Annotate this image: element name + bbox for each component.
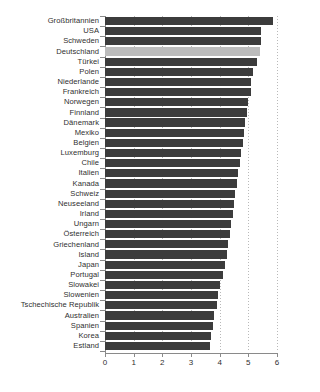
bar-row bbox=[105, 220, 277, 228]
category-label: USA bbox=[83, 27, 99, 35]
bar-row bbox=[105, 58, 277, 66]
category-tick bbox=[100, 67, 105, 68]
category-tick bbox=[100, 351, 105, 352]
bar-irland bbox=[105, 210, 233, 218]
gridline-6 bbox=[277, 16, 278, 351]
category-tick bbox=[100, 168, 105, 169]
bar-kanada bbox=[105, 179, 237, 187]
category-tick bbox=[100, 239, 105, 240]
bar-estland bbox=[105, 342, 210, 350]
bar-neuseeland bbox=[105, 200, 234, 208]
category-label: Korea bbox=[78, 332, 99, 340]
bar-row bbox=[105, 108, 277, 116]
bar-usa bbox=[105, 27, 261, 35]
category-label: Deutschland bbox=[56, 48, 99, 56]
x-tick-label: 5 bbox=[246, 359, 250, 367]
bar--sterreich bbox=[105, 230, 230, 238]
bar-row bbox=[105, 301, 277, 309]
category-tick bbox=[100, 310, 105, 311]
bar-schweden bbox=[105, 37, 261, 45]
x-tick-label: 1 bbox=[131, 359, 135, 367]
x-tick bbox=[162, 353, 163, 357]
bar-row bbox=[105, 179, 277, 187]
bar-row bbox=[105, 129, 277, 137]
x-tick bbox=[277, 353, 278, 357]
category-tick bbox=[100, 128, 105, 129]
category-label: Frankreich bbox=[63, 88, 99, 96]
bar-row bbox=[105, 311, 277, 319]
bar-griechenland bbox=[105, 240, 228, 248]
category-label: Irland bbox=[80, 210, 99, 218]
bar-row bbox=[105, 88, 277, 96]
category-tick bbox=[100, 77, 105, 78]
category-tick bbox=[100, 331, 105, 332]
bar-italien bbox=[105, 169, 238, 177]
bar-row bbox=[105, 159, 277, 167]
category-label: Dänemark bbox=[64, 119, 99, 127]
bar-belgien bbox=[105, 139, 243, 147]
bar-spanien bbox=[105, 322, 213, 330]
category-label: Belgien bbox=[73, 139, 99, 147]
category-tick bbox=[100, 341, 105, 342]
category-tick bbox=[100, 26, 105, 27]
bar-row bbox=[105, 250, 277, 258]
category-label: Finnland bbox=[69, 109, 99, 117]
category-tick bbox=[100, 290, 105, 291]
bar-row bbox=[105, 27, 277, 35]
bar-row bbox=[105, 291, 277, 299]
bar-gro-britannien bbox=[105, 17, 273, 25]
bar-chile bbox=[105, 159, 240, 167]
bar-row bbox=[105, 47, 277, 55]
category-label: Spanien bbox=[71, 322, 99, 330]
bar-row bbox=[105, 190, 277, 198]
bar-row bbox=[105, 261, 277, 269]
bar-row bbox=[105, 332, 277, 340]
bar-row bbox=[105, 169, 277, 177]
category-tick bbox=[100, 199, 105, 200]
plot-area bbox=[105, 16, 277, 351]
category-tick bbox=[100, 229, 105, 230]
category-tick bbox=[100, 148, 105, 149]
category-label: Mexiko bbox=[75, 129, 99, 137]
bar-row bbox=[105, 98, 277, 106]
category-label: Norwegen bbox=[64, 98, 99, 106]
category-label: Türkei bbox=[78, 58, 99, 66]
bar-japan bbox=[105, 261, 225, 269]
bar-row bbox=[105, 78, 277, 86]
category-label: Griechenland bbox=[53, 241, 99, 249]
category-label: Kanada bbox=[73, 180, 99, 188]
category-label: Island bbox=[78, 251, 99, 259]
x-tick-label: 6 bbox=[275, 359, 279, 367]
x-tick bbox=[191, 353, 192, 357]
category-tick bbox=[100, 57, 105, 58]
category-label: Polen bbox=[79, 68, 99, 76]
bar-tschechische-republik bbox=[105, 301, 217, 309]
bar-polen bbox=[105, 68, 253, 76]
x-tick-label: 4 bbox=[217, 359, 221, 367]
bar-row bbox=[105, 342, 277, 350]
category-tick bbox=[100, 97, 105, 98]
x-tick bbox=[134, 353, 135, 357]
category-label: Schweiz bbox=[70, 190, 99, 198]
category-tick bbox=[100, 321, 105, 322]
bar-row bbox=[105, 37, 277, 45]
bar-row bbox=[105, 240, 277, 248]
category-tick bbox=[100, 209, 105, 210]
category-tick bbox=[100, 249, 105, 250]
category-tick bbox=[100, 280, 105, 281]
bar-korea bbox=[105, 332, 211, 340]
bar-row bbox=[105, 230, 277, 238]
bar-luxemburg bbox=[105, 149, 241, 157]
bar-row bbox=[105, 118, 277, 126]
bar-finnland bbox=[105, 108, 247, 116]
bar-slowenien bbox=[105, 291, 218, 299]
category-label: Estland bbox=[73, 342, 99, 350]
category-label: Österreich bbox=[63, 230, 99, 238]
bar-norwegen bbox=[105, 98, 248, 106]
bar-row bbox=[105, 271, 277, 279]
category-tick bbox=[100, 138, 105, 139]
category-tick bbox=[100, 260, 105, 261]
category-label: Schweden bbox=[63, 37, 99, 45]
x-tick bbox=[248, 353, 249, 357]
bar-row bbox=[105, 17, 277, 25]
